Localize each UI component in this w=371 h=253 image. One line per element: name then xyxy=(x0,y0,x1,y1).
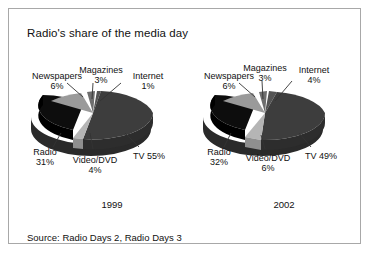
slice-1999-video-side xyxy=(73,138,83,149)
label-2002-video: Video/DVD 6% xyxy=(237,153,299,173)
source-note: Source: Radio Days 2, Radio Days 3 xyxy=(27,232,182,243)
label-2002-internet: Internet 4% xyxy=(287,65,341,85)
year-label-1999: 1999 xyxy=(82,199,142,210)
label-1999-internet: Internet 1% xyxy=(121,71,175,91)
label-2002-tv: TV 49% xyxy=(305,151,337,161)
chart-frame: Radio's share of the media day xyxy=(8,8,361,244)
label-2002-magazines: Magazines 3% xyxy=(235,63,295,83)
label-1999-video: Video/DVD 4% xyxy=(64,155,126,175)
year-label-2002: 2002 xyxy=(254,199,314,210)
label-1999-tv: TV 55% xyxy=(133,151,165,161)
slice-1999-tv-top xyxy=(93,91,153,113)
